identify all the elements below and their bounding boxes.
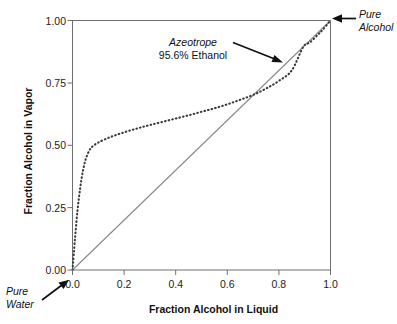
x-tick-label-1.0: 1.0 xyxy=(323,278,338,290)
pure-water-line2: Water xyxy=(6,298,34,311)
x-axis-title: Fraction Alcohol in Liquid xyxy=(0,303,397,315)
x-tick-label-0.4: 0.4 xyxy=(168,278,183,290)
pure-water-line1: Pure xyxy=(6,285,34,298)
x-tick-marks xyxy=(73,270,331,275)
pure-water-annotation: Pure Water xyxy=(6,285,34,311)
x-tick-label-0.6: 0.6 xyxy=(220,278,235,290)
x-tick-label-0.8: 0.8 xyxy=(272,278,287,290)
pure-alcohol-line1: Pure xyxy=(359,8,393,21)
chart-figure: 1.00 0.75 0.50 0.25 0.00 0.0 0.2 0.4 0.6… xyxy=(0,0,397,324)
pure-alcohol-arrow xyxy=(332,14,356,23)
pure-alcohol-line2: Alcohol xyxy=(359,21,393,34)
y-axis-title: Fraction Alcohol in Vapor xyxy=(22,51,34,251)
azeotrope-annotation: Azeotrope 95.6% Ethanol xyxy=(150,36,236,62)
y-tick-marks xyxy=(68,21,73,271)
azeotrope-annotation-subtitle: 95.6% Ethanol xyxy=(150,49,236,62)
y-tick-label-1.00: 1.00 xyxy=(28,15,66,27)
x-tick-label-0.2: 0.2 xyxy=(117,278,132,290)
pure-alcohol-annotation: Pure Alcohol xyxy=(359,8,393,34)
y-tick-label-0.00: 0.00 xyxy=(28,264,66,276)
x-tick-label-0.0: 0.0 xyxy=(65,278,80,290)
azeotrope-annotation-title: Azeotrope xyxy=(150,36,236,49)
